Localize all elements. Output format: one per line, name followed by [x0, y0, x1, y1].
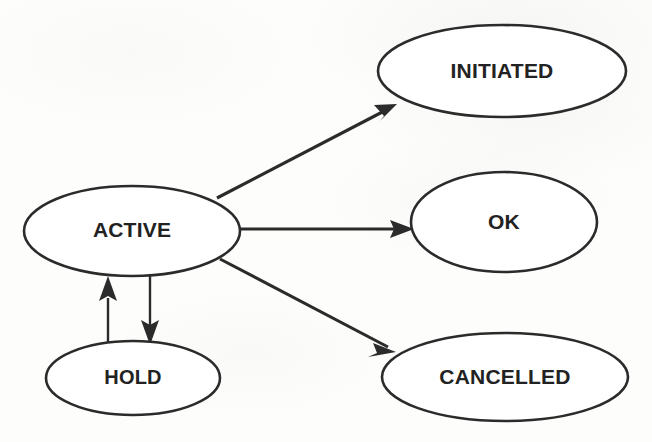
node-hold[interactable]: HOLD — [46, 341, 220, 415]
node-label-hold: HOLD — [104, 366, 161, 388]
node-label-ok: OK — [488, 210, 520, 233]
node-ok[interactable]: OK — [411, 172, 597, 272]
arrowhead-initiated-icon — [374, 104, 397, 121]
diagram-canvas: ACTIVE INITIATED OK HOLD CANCELLED — [0, 0, 652, 442]
node-initiated[interactable]: INITIATED — [378, 25, 626, 117]
node-label-cancelled: CANCELLED — [439, 365, 570, 388]
edge-active-to-cancelled[interactable] — [220, 259, 396, 357]
edge-active-to-hold[interactable] — [141, 274, 159, 345]
state-diagram: ACTIVE INITIATED OK HOLD CANCELLED — [0, 0, 652, 442]
arrowhead-active-icon — [99, 276, 117, 301]
edge-line-active-cancelled — [220, 259, 388, 347]
edge-active-to-initiated[interactable] — [217, 104, 397, 198]
node-cancelled[interactable]: CANCELLED — [382, 333, 628, 421]
edge-active-to-ok[interactable] — [239, 220, 414, 238]
node-active[interactable]: ACTIVE — [24, 186, 240, 276]
node-label-active: ACTIVE — [93, 218, 171, 241]
edge-line-active-initiated — [217, 108, 390, 198]
node-label-initiated: INITIATED — [451, 59, 554, 82]
edge-hold-to-active[interactable] — [99, 276, 117, 349]
